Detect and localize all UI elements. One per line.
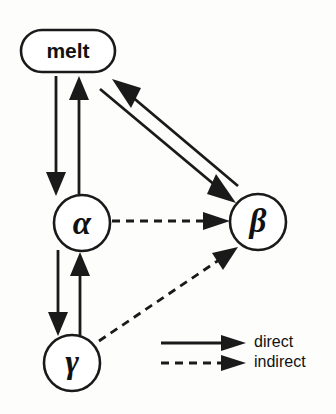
legend-item-indirect: indirect (161, 353, 306, 371)
arrow-head-right (203, 212, 230, 230)
arrow-head-up-right (212, 247, 238, 270)
edge-alpha-to-melt (69, 76, 89, 194)
arrow-head-down (48, 312, 68, 336)
arrow-head-up (70, 252, 90, 276)
edge-alpha-to-beta (112, 212, 230, 230)
arrow-head-down-right (207, 174, 236, 203)
node-beta-label: β (248, 203, 267, 239)
node-alpha[interactable]: α (54, 195, 110, 251)
edge-melt-to-beta (100, 89, 236, 203)
edge-gamma-to-alpha (70, 252, 90, 337)
arrow-head-up (69, 76, 89, 100)
edge-gamma-to-beta (99, 247, 238, 341)
node-alpha-label: α (73, 205, 92, 241)
node-melt[interactable]: melt (21, 30, 115, 72)
arrow-head-down (46, 172, 66, 196)
node-gamma-label: γ (65, 344, 79, 380)
diagram-canvas: melt α β γ direct indi (0, 0, 336, 414)
legend-item-direct: direct (161, 333, 294, 351)
legend-direct-label: direct (254, 333, 294, 350)
edge-beta-to-melt (112, 79, 238, 186)
legend: direct indirect (161, 333, 306, 371)
node-beta[interactable]: β (230, 194, 286, 250)
arrow-head-right (221, 355, 246, 371)
arrow-head-right (221, 335, 246, 351)
legend-indirect-label: indirect (254, 353, 306, 370)
phase-transformation-diagram: melt α β γ direct indi (0, 0, 336, 414)
node-gamma[interactable]: γ (44, 335, 100, 391)
node-melt-label: melt (46, 39, 89, 62)
edge-melt-to-alpha (46, 76, 66, 196)
edge-alpha-to-gamma (48, 250, 68, 336)
